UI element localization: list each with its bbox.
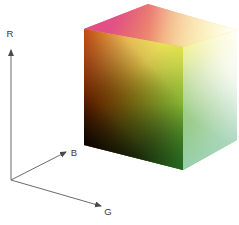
g-axis-label: G bbox=[104, 206, 111, 217]
b-axis-label: B bbox=[71, 147, 77, 158]
g-axis-line bbox=[11, 180, 101, 206]
rgb-cube-figure: R B G bbox=[0, 0, 239, 225]
rgb-colour-cube bbox=[84, 4, 237, 170]
figure-canvas: R B G bbox=[0, 0, 239, 225]
cube-face-right bbox=[183, 30, 237, 170]
r-axis-label: R bbox=[7, 28, 14, 39]
b-axis-line bbox=[11, 152, 66, 180]
cube-face-left bbox=[84, 29, 183, 170]
